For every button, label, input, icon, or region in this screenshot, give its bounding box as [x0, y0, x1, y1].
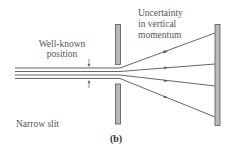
detection-screen: [215, 25, 220, 126]
diffracted-rays: [120, 33, 215, 117]
arrowhead-down: [88, 64, 91, 67]
arrowhead-up: [88, 80, 91, 83]
incoming-beams: [15, 68, 120, 79]
slit-upper-bar: [116, 25, 121, 65]
uncertainty-label-line3: momentum: [138, 30, 182, 40]
ray-arrowhead: [163, 51, 168, 54]
uncertainty-label-line1: Uncertainty: [138, 8, 183, 18]
position-label-line1: Well-known: [39, 39, 86, 49]
uncertainty-label-line2: in vertical: [138, 19, 177, 29]
diffraction-diagram: Well-known position Uncertainty in verti…: [0, 0, 232, 152]
diffracted-ray: [120, 64, 215, 72]
figure-caption: (b): [110, 133, 122, 145]
position-arrows: [88, 59, 91, 88]
position-label-line2: position: [47, 49, 78, 59]
slit-label: Narrow slit: [16, 119, 59, 129]
slit-lower-bar: [116, 84, 121, 124]
